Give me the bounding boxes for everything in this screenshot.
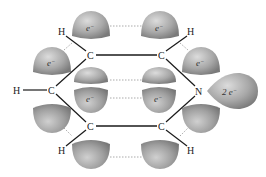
atom-c1: C: [87, 50, 94, 61]
orbital-lobe-upper-right: e−: [182, 47, 220, 75]
atom-c3: C: [48, 85, 55, 96]
atom-h4: H: [58, 145, 65, 156]
atom-n: N: [195, 86, 202, 97]
nitrogen-lone-pair-orbital: 2 e−: [207, 73, 258, 109]
orbital-lobe-bottom-left: [72, 140, 110, 169]
orbital-lobe-upper-left: e−: [33, 47, 71, 75]
atom-c2: C: [158, 50, 165, 61]
orbital-lobe-bottom-right: [141, 140, 179, 169]
atom-h3: H: [13, 85, 20, 96]
orbital-lobe-top-right: e−: [141, 11, 179, 39]
orbital-lobe-top-left: e−: [72, 11, 110, 39]
pyridine-orbital-diagram: e− e− e− e− e− e− 2 e−: [0, 0, 266, 177]
orbital-lobe-lower-right: [182, 104, 220, 133]
atom-h5: H: [187, 145, 194, 156]
atom-h2: H: [187, 26, 194, 37]
atom-h1: H: [58, 26, 65, 37]
atom-c4: C: [87, 121, 94, 132]
orbital-lobe-center-left: e−: [74, 67, 108, 113]
orbital-lobe-center-right: e−: [142, 67, 176, 113]
atom-c5: C: [158, 121, 165, 132]
